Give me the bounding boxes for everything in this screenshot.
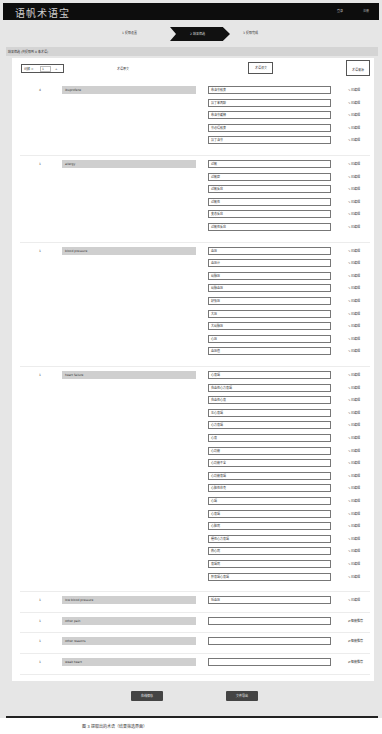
edited-button[interactable]: ✎ 已编辑	[348, 200, 360, 204]
target-term-input[interactable]: 低血压	[208, 596, 331, 604]
target-term-input[interactable]: 舒张压	[208, 297, 331, 305]
smart-recommend-button[interactable]: ⇄ 智能推荐	[348, 639, 363, 643]
target-term-input[interactable]: 大压	[208, 310, 331, 318]
smart-recommend-button[interactable]: ⇄ 智能推荐	[348, 660, 363, 664]
target-term-input[interactable]: 心脏性休克	[208, 484, 331, 492]
target-term-input[interactable]: 心压	[208, 335, 331, 343]
target-term-input[interactable]: 血压	[208, 247, 331, 255]
edited-button[interactable]: ✎ 已编辑	[348, 126, 360, 130]
edited-button[interactable]: ✎ 已编辑	[348, 225, 360, 229]
edited-button[interactable]: ✎ 已编辑	[348, 175, 360, 179]
edited-button[interactable]: ✎ 已编辑	[348, 212, 360, 216]
target-term-input[interactable]: 血压值	[208, 347, 331, 355]
frequency-input[interactable]: 1	[40, 66, 51, 72]
target-term-input[interactable]: 过敏性	[208, 198, 331, 206]
edited-button[interactable]: ✎ 已编辑	[348, 562, 360, 566]
target-term-input[interactable]: 心衰	[208, 434, 331, 442]
target-term-input[interactable]: 充血性心力衰竭	[208, 384, 331, 392]
target-term-input[interactable]: 心功能	[208, 447, 331, 455]
results-panel: 词频 = 1 + 术语原文 术语译文 术语来源 4ibuprofene布洛芬胶囊…	[12, 58, 374, 681]
save-online-button[interactable]: 在线保存	[131, 691, 163, 701]
target-term-input[interactable]	[208, 658, 331, 666]
target-term-input[interactable]: 心衰竭	[208, 371, 331, 379]
edited-button[interactable]: ✎ 已编辑	[348, 411, 360, 415]
target-term-input[interactable]: 大动脉压	[208, 322, 331, 330]
target-term-input[interactable]: 慢性心力衰竭	[208, 535, 331, 543]
edited-button[interactable]: ✎ 已编辑	[348, 423, 360, 427]
edited-button[interactable]: ✎ 已编辑	[348, 162, 360, 166]
row-divider	[20, 591, 370, 592]
target-term-input[interactable]: 心力衰竭	[208, 421, 331, 429]
edited-button[interactable]: ✎ 已编辑	[348, 101, 360, 105]
source-term: heart failure	[62, 371, 196, 379]
edited-button[interactable]: ✎ 已编辑	[348, 187, 360, 191]
edited-button[interactable]: ✎ 已编辑	[348, 512, 360, 516]
target-term-input[interactable]: 布洛芬胶囊	[208, 86, 331, 94]
source-term: weak heart	[62, 658, 196, 666]
edited-button[interactable]: ✎ 已编辑	[348, 138, 360, 142]
edited-button[interactable]: ✎ 已编辑	[348, 88, 360, 92]
edited-button[interactable]: ✎ 已编辑	[348, 299, 360, 303]
row-frequency: 1	[39, 373, 41, 377]
edited-button[interactable]: ✎ 已编辑	[348, 436, 360, 440]
login-link[interactable]: 登录	[337, 9, 343, 13]
target-term-input[interactable]	[208, 617, 331, 625]
target-term-input[interactable]: 异丁苯丙酸	[208, 99, 331, 107]
target-term-header-button[interactable]: 术语译文	[248, 62, 273, 74]
target-term-input[interactable]: 布洛芬缓释	[208, 111, 331, 119]
edited-button[interactable]: ✎ 已编辑	[348, 261, 360, 265]
frequency-filter[interactable]: 词频 = 1 +	[21, 64, 64, 73]
edited-button[interactable]: ✎ 已编辑	[348, 486, 360, 490]
target-term-input[interactable]: 过敏性反应	[208, 223, 331, 231]
term-source-header-button[interactable]: 术语来源	[346, 60, 370, 76]
target-term-input[interactable]: 心脏病	[208, 522, 331, 530]
target-term-input[interactable]: 衰竭病	[208, 560, 331, 568]
target-term-input[interactable]: 充血性心衰	[208, 396, 331, 404]
target-term-input[interactable]	[208, 637, 331, 645]
edited-button[interactable]: ✎ 已编辑	[348, 249, 360, 253]
row-frequency: 1	[39, 619, 41, 623]
target-term-input[interactable]: 心功能不全	[208, 459, 331, 467]
target-term-input[interactable]: 芬必得胶囊	[208, 124, 331, 132]
target-term-input[interactable]: 过敏症	[208, 173, 331, 181]
edited-button[interactable]: ✎ 已编辑	[348, 398, 360, 402]
target-term-input[interactable]: 变态反应	[208, 210, 331, 218]
step-indicator: 1 提取设置 2 结果筛选 3 提取完成	[0, 26, 382, 42]
edited-button[interactable]: ✎ 已编辑	[348, 598, 360, 602]
export-file-button[interactable]: 文件导出	[226, 691, 258, 701]
target-term-input[interactable]: 心功能衰竭	[208, 472, 331, 480]
target-term-input[interactable]: 左心衰竭	[208, 409, 331, 417]
smart-recommend-button[interactable]: ⇄ 智能推荐	[348, 619, 363, 623]
edited-button[interactable]: ✎ 已编辑	[348, 312, 360, 316]
edited-button[interactable]: ✎ 已编辑	[348, 449, 360, 453]
target-term-input[interactable]: 过敏反应	[208, 185, 331, 193]
edited-button[interactable]: ✎ 已编辑	[348, 474, 360, 478]
edited-button[interactable]: ✎ 已编辑	[348, 499, 360, 503]
edited-button[interactable]: ✎ 已编辑	[348, 537, 360, 541]
edited-button[interactable]: ✎ 已编辑	[348, 386, 360, 390]
frequency-plus-button[interactable]: +	[55, 67, 58, 71]
edited-button[interactable]: ✎ 已编辑	[348, 274, 360, 278]
target-term-input[interactable]: 血压计	[208, 259, 331, 267]
target-term-input[interactable]: 心衰竭	[208, 510, 331, 518]
edited-button[interactable]: ✎ 已编辑	[348, 461, 360, 465]
target-term-input[interactable]: 心竭	[208, 497, 331, 505]
target-term-input[interactable]: 热心病	[208, 547, 331, 555]
target-term-input[interactable]: 肝衰竭心衰竭	[208, 573, 331, 581]
target-term-input[interactable]: 动脉压	[208, 272, 331, 280]
row-divider	[20, 612, 370, 613]
target-term-input[interactable]: 异丁洛芬	[208, 136, 331, 144]
section-header: 结果筛选 (共提取到 8 条术语)	[6, 47, 378, 56]
edited-button[interactable]: ✎ 已编辑	[348, 549, 360, 553]
edited-button[interactable]: ✎ 已编辑	[348, 337, 360, 341]
edited-button[interactable]: ✎ 已编辑	[348, 349, 360, 353]
target-term-input[interactable]: 动脉血压	[208, 284, 331, 292]
edited-button[interactable]: ✎ 已编辑	[348, 113, 360, 117]
edited-button[interactable]: ✎ 已编辑	[348, 324, 360, 328]
edited-button[interactable]: ✎ 已编辑	[348, 373, 360, 377]
register-link[interactable]: 注册	[363, 9, 369, 13]
edited-button[interactable]: ✎ 已编辑	[348, 524, 360, 528]
edited-button[interactable]: ✎ 已编辑	[348, 286, 360, 290]
edited-button[interactable]: ✎ 已编辑	[348, 575, 360, 579]
target-term-input[interactable]: 过敏	[208, 160, 331, 168]
